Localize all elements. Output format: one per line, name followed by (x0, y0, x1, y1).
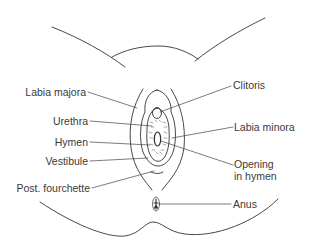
hymen-opening (154, 132, 160, 146)
label-opening-in-hymen-line1: Opening (234, 158, 274, 170)
label-labia-majora: Labia majora (25, 86, 86, 98)
leader-labia-majora (88, 92, 137, 108)
label-post-fourchette: Post. fourchette (16, 182, 90, 194)
leader-labia-minora (172, 127, 233, 138)
leader-vestibule (90, 158, 148, 161)
anus-mark (154, 199, 158, 209)
label-anus: Anus (233, 198, 257, 210)
mons-pubis-curve (112, 46, 198, 59)
label-labia-minora: Labia minora (234, 121, 295, 133)
leader-clitoris (160, 86, 231, 112)
label-urethra: Urethra (53, 115, 88, 127)
fourchette-line (151, 172, 163, 174)
label-clitoris: Clitoris (233, 79, 265, 91)
label-vestibule: Vestibule (45, 155, 88, 167)
clitoris-shape (153, 108, 162, 119)
leader-post-fourchette (92, 171, 154, 188)
upper-left-contour (52, 27, 125, 67)
label-hymen: Hymen (55, 136, 88, 148)
labia-minora-outline (141, 90, 176, 166)
leader-opening-hymen (161, 141, 233, 165)
upper-right-contour (195, 18, 265, 61)
anatomy-diagram: Labia majora Urethra Hymen Vestibule Pos… (0, 0, 309, 249)
vestibule-outline (147, 108, 170, 161)
leader-urethra (90, 121, 152, 126)
label-opening-in-hymen-line2: in hymen (234, 170, 277, 182)
